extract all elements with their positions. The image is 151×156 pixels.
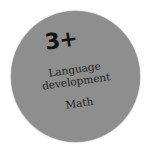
- age-label: 3+: [43, 28, 78, 54]
- badge-content: 3+ Language development Math: [3, 3, 149, 151]
- age-topic-badge: 3+ Language development Math: [11, 11, 140, 142]
- topic-list: Language development Math: [10, 54, 144, 118]
